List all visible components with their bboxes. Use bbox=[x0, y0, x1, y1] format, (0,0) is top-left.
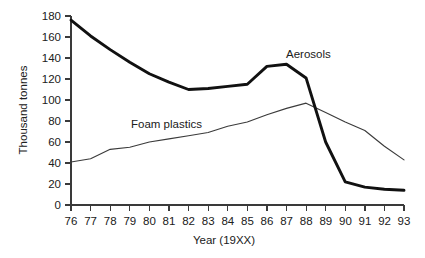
y-axis-title: Thousand tonnes bbox=[17, 65, 29, 154]
y-tick-label: 20 bbox=[48, 178, 61, 190]
series-line-aerosols bbox=[71, 20, 404, 190]
y-tick-label: 160 bbox=[42, 31, 61, 43]
x-tick-label: 81 bbox=[163, 215, 176, 227]
x-tick-label: 77 bbox=[84, 215, 97, 227]
x-axis: 76 77 78 79 80 81 82 83 84 85 86 87 88 8… bbox=[65, 205, 411, 246]
y-tick-label: 180 bbox=[42, 10, 61, 22]
x-tick-marks bbox=[71, 205, 404, 211]
x-tick-label: 84 bbox=[221, 215, 234, 227]
y-axis: 0 20 40 60 80 100 120 140 160 180 Thousa… bbox=[17, 10, 71, 211]
x-tick-label: 80 bbox=[143, 215, 156, 227]
series-labels: Aerosols Foam plastics bbox=[131, 48, 331, 130]
x-tick-label: 83 bbox=[202, 215, 215, 227]
chart-canvas: 0 20 40 60 80 100 120 140 160 180 Thousa… bbox=[0, 0, 425, 258]
x-tick-label: 89 bbox=[319, 215, 332, 227]
x-tick-label: 93 bbox=[398, 215, 411, 227]
series-label-foam-plastics: Foam plastics bbox=[131, 118, 202, 130]
y-tick-label: 140 bbox=[42, 52, 61, 64]
x-tick-label: 90 bbox=[339, 215, 352, 227]
y-tick-label: 80 bbox=[48, 115, 61, 127]
x-tick-labels: 76 77 78 79 80 81 82 83 84 85 86 87 88 8… bbox=[65, 215, 411, 227]
x-tick-label: 82 bbox=[182, 215, 195, 227]
x-tick-label: 88 bbox=[300, 215, 313, 227]
x-tick-label: 92 bbox=[378, 215, 391, 227]
series-label-aerosols: Aerosols bbox=[286, 48, 331, 60]
x-tick-label: 78 bbox=[104, 215, 117, 227]
y-tick-label: 40 bbox=[48, 157, 61, 169]
series-line-foam-plastics bbox=[71, 103, 404, 162]
y-tick-label: 100 bbox=[42, 94, 61, 106]
series-layer bbox=[71, 20, 404, 190]
y-tick-label: 0 bbox=[55, 199, 61, 211]
x-axis-title: Year (19XX) bbox=[193, 234, 255, 246]
x-tick-label: 76 bbox=[65, 215, 78, 227]
y-tick-marks bbox=[65, 16, 71, 205]
x-tick-label: 86 bbox=[261, 215, 274, 227]
y-tick-label: 60 bbox=[48, 136, 61, 148]
line-chart: 0 20 40 60 80 100 120 140 160 180 Thousa… bbox=[0, 0, 425, 258]
x-tick-label: 91 bbox=[359, 215, 372, 227]
x-tick-label: 87 bbox=[280, 215, 293, 227]
x-tick-label: 85 bbox=[241, 215, 254, 227]
y-tick-label: 120 bbox=[42, 73, 61, 85]
y-tick-labels: 0 20 40 60 80 100 120 140 160 180 bbox=[42, 10, 61, 211]
x-tick-label: 79 bbox=[123, 215, 136, 227]
